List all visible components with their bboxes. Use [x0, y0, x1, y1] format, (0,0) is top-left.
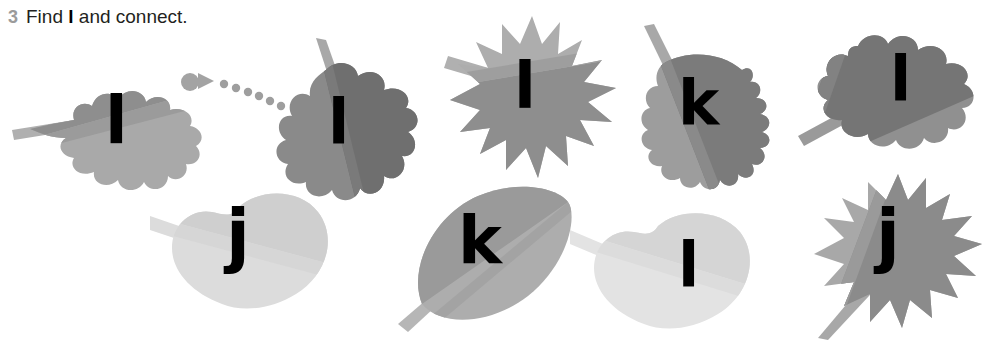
leaf-item-4[interactable]: k	[618, 22, 798, 202]
leaf-item-5[interactable]: l	[798, 18, 983, 173]
instruction-text: Find l and connect.	[26, 6, 188, 28]
leaf-item-9[interactable]: j	[810, 170, 983, 340]
leaf-item-1[interactable]: l	[12, 52, 212, 197]
leaf-item-7[interactable]: k	[398, 182, 583, 332]
instruction-prefix: Find	[26, 6, 63, 27]
instruction-line: 3 Find l and connect.	[8, 6, 188, 28]
task-number: 3	[8, 7, 18, 28]
leaf-item-6[interactable]: j	[150, 186, 345, 326]
instruction-suffix: and connect.	[79, 6, 188, 27]
leaf-item-3[interactable]: l	[442, 10, 622, 190]
leaf-item-8[interactable]: l	[570, 212, 765, 337]
